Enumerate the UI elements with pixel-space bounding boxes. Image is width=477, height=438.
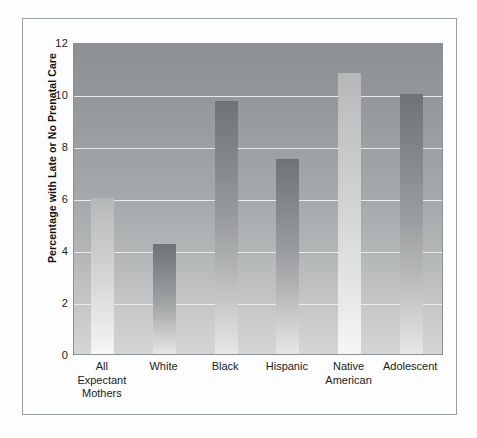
y-tick-label: 8 (62, 142, 68, 153)
gridline (74, 96, 442, 97)
x-tick-label-line: Hispanic (256, 360, 318, 374)
x-axis-ticks: AllExpectantMothersWhiteBlackHispanicNat… (73, 360, 443, 412)
y-tick-label: 4 (62, 246, 68, 257)
bar (153, 244, 176, 355)
x-tick-label-line: Mothers (71, 387, 133, 401)
y-tick-label: 2 (62, 298, 68, 309)
x-tick-label: Hispanic (256, 360, 318, 374)
chart-figure: 024681012 Percentage with Late or No Pre… (0, 0, 477, 438)
bar (276, 159, 299, 354)
x-tick-label: NativeAmerican (318, 360, 380, 387)
gridline (74, 148, 442, 149)
y-axis-title: Percentage with Late or No Prenatal Care (46, 18, 58, 298)
x-tick-label-line: White (133, 360, 195, 374)
x-tick-label-line: Adolescent (379, 360, 441, 374)
x-tick-label-line: All (71, 360, 133, 374)
y-tick-label: 6 (62, 194, 68, 205)
x-tick-label: AllExpectantMothers (71, 360, 133, 401)
gridline (74, 304, 442, 305)
y-tick-label: 0 (62, 350, 68, 361)
x-tick-label-line: Black (194, 360, 256, 374)
bar (215, 101, 238, 355)
x-tick-label-line: Expectant (71, 374, 133, 388)
x-tick-label-line: American (318, 374, 380, 388)
x-tick-label: White (133, 360, 195, 374)
bar (400, 94, 423, 354)
gridline (74, 252, 442, 253)
x-tick-label: Adolescent (379, 360, 441, 374)
x-tick-label: Black (194, 360, 256, 374)
plot-area (73, 43, 443, 355)
bar (338, 73, 361, 354)
gridline (74, 200, 442, 201)
bar (91, 198, 114, 354)
x-tick-label-line: Native (318, 360, 380, 374)
